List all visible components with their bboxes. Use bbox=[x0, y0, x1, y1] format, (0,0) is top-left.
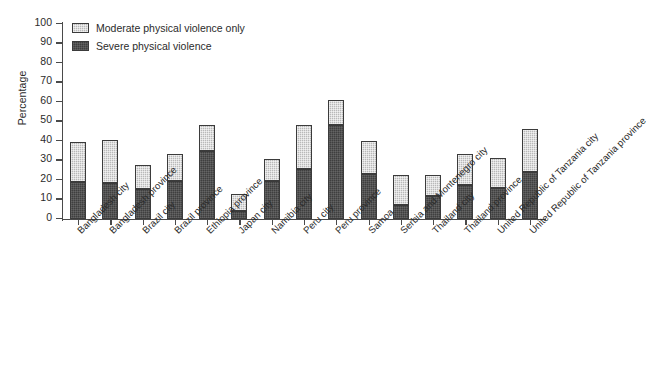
legend-swatch-moderate-icon bbox=[72, 23, 89, 33]
y-axis-tick-label: 20 bbox=[40, 172, 52, 184]
y-axis-tick: 90 bbox=[56, 42, 62, 43]
y-axis-tick: 70 bbox=[56, 81, 62, 82]
bar-segment-moderate[interactable] bbox=[490, 158, 506, 188]
bar-segment-moderate[interactable] bbox=[296, 125, 312, 169]
legend-item-moderate: Moderate physical violence only bbox=[72, 20, 245, 36]
y-axis-tick: 20 bbox=[56, 179, 62, 180]
y-axis-tick-label: 50 bbox=[40, 113, 52, 125]
legend-swatch-severe-icon bbox=[72, 41, 89, 51]
y-axis-tick-label: 90 bbox=[40, 35, 52, 47]
bar-segment-moderate[interactable] bbox=[328, 100, 344, 125]
legend-item-severe: Severe physical violence bbox=[72, 38, 245, 54]
y-axis-title: Percentage bbox=[16, 38, 28, 158]
bar-group[interactable] bbox=[328, 100, 344, 219]
y-axis-tick-label: 30 bbox=[40, 152, 52, 164]
bar-segment-moderate[interactable] bbox=[70, 142, 86, 182]
chart-legend: Moderate physical violence only Severe p… bbox=[72, 20, 245, 56]
bar-group[interactable] bbox=[70, 142, 86, 219]
y-axis-tick-label: 10 bbox=[40, 191, 52, 203]
y-axis-tick: 100 bbox=[56, 23, 62, 24]
bar-segment-moderate[interactable] bbox=[199, 125, 215, 150]
bar-segment-moderate[interactable] bbox=[393, 175, 409, 205]
y-axis-tick: 50 bbox=[56, 120, 62, 121]
bar-segment-moderate[interactable] bbox=[522, 129, 538, 172]
bar-segment-severe[interactable] bbox=[70, 182, 86, 219]
y-axis-tick: 10 bbox=[56, 198, 62, 199]
y-axis-tick-label: 70 bbox=[40, 74, 52, 86]
legend-label-moderate: Moderate physical violence only bbox=[96, 22, 245, 34]
y-axis-tick: 30 bbox=[56, 159, 62, 160]
y-axis-tick: 0 bbox=[56, 218, 62, 219]
bar-segment-moderate[interactable] bbox=[102, 140, 118, 183]
legend-label-severe: Severe physical violence bbox=[96, 40, 212, 52]
y-axis-tick-label: 40 bbox=[40, 133, 52, 145]
y-axis-tick-label: 100 bbox=[34, 16, 52, 28]
bar-segment-moderate[interactable] bbox=[264, 159, 280, 181]
y-axis-tick: 40 bbox=[56, 140, 62, 141]
y-axis-tick: 60 bbox=[56, 101, 62, 102]
y-axis-tick: 80 bbox=[56, 62, 62, 63]
y-axis-tick-label: 0 bbox=[46, 211, 52, 223]
bar-segment-severe[interactable] bbox=[393, 205, 409, 219]
bar-segment-moderate[interactable] bbox=[361, 141, 377, 174]
y-axis-tick-label: 60 bbox=[40, 94, 52, 106]
y-axis-tick-label: 80 bbox=[40, 55, 52, 67]
